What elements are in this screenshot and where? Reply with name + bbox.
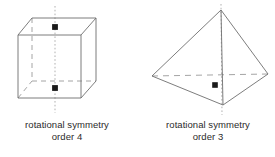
cube-bottom-face-centre-marker <box>52 85 58 91</box>
pyramid-base-centre-marker <box>212 82 218 88</box>
cube-top-face-centre-marker <box>52 24 58 30</box>
pyramid-caption-line-1: rotational symmetry <box>141 119 275 131</box>
cube-figure <box>18 6 96 113</box>
pyramid-caption: rotational symmetry order 3 <box>141 119 275 143</box>
pyramid-caption-line-2: order 3 <box>141 131 275 143</box>
cube-edge-top-right-diagonal <box>81 18 96 35</box>
pyramid-edge-apex-to-base-left <box>152 10 221 76</box>
pyramid-hidden-edge-base-back <box>152 74 268 76</box>
pyramid-edge-base-front-to-right <box>223 74 268 105</box>
figure-panel: rotational symmetry order 4 rotational s… <box>0 0 275 157</box>
pyramid-edge-apex-to-base-right <box>221 10 268 74</box>
pyramid-visible-edges <box>152 10 268 105</box>
cube-caption-line-2: order 4 <box>0 131 134 143</box>
cube-hidden-edge-bottom-left <box>18 81 32 98</box>
pyramid-figure <box>152 4 268 115</box>
cube-edge-top-left-diagonal <box>18 18 32 35</box>
cube-edge-bottom-right-diagonal <box>81 81 96 98</box>
pyramid-edge-base-left-to-front <box>152 76 223 105</box>
cube-caption: rotational symmetry order 4 <box>0 119 134 143</box>
cube-caption-line-1: rotational symmetry <box>0 119 134 131</box>
